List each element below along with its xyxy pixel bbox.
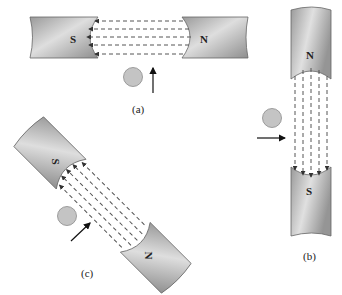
caption-c: (c)	[81, 267, 94, 280]
field-lines-c	[55, 158, 148, 251]
magnet-s-pole-c	[12, 115, 86, 189]
pole-label-s-a: S	[70, 33, 76, 45]
pole-label-n-c: N	[143, 251, 155, 259]
caption-b: (b)	[303, 250, 316, 263]
magnet-n-pole-c	[120, 222, 192, 294]
particle-c	[58, 207, 77, 226]
pole-label-s-c: S	[50, 159, 62, 165]
panel-c: S N (c)	[12, 115, 192, 294]
magnet-s-pole-a	[30, 17, 98, 58]
pole-label-s-b: S	[306, 185, 312, 197]
particle-b	[263, 109, 282, 128]
field-lines-a	[87, 21, 191, 54]
panel-b: N S (b)	[257, 7, 331, 263]
field-lines-b	[295, 68, 327, 177]
caption-a: (a)	[132, 103, 145, 116]
magnetic-field-diagram: S N (a) N S	[0, 0, 342, 295]
magnet-s-pole-b	[291, 167, 331, 236]
panel-a: S N (a)	[30, 17, 248, 116]
pole-label-n-a: N	[200, 33, 208, 45]
velocity-arrow-diagonal-icon	[71, 223, 90, 241]
particle-a	[124, 68, 143, 87]
pole-label-n-b: N	[306, 49, 314, 61]
magnet-n-pole-a	[182, 17, 248, 58]
